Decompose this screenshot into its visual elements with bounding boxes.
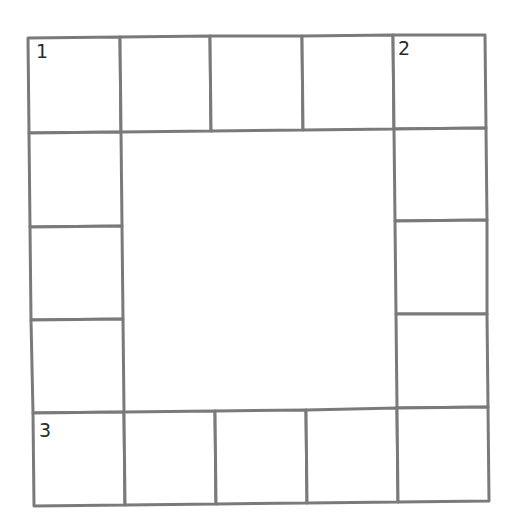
grid-cell-right-column-3[interactable] [396, 314, 488, 408]
grid-cell-top-row-3[interactable] [210, 36, 303, 131]
grid-cell-bottom-row-5[interactable] [397, 407, 489, 502]
grid-cell-left-column-3[interactable] [31, 319, 124, 413]
clue-number-3: 3 [39, 419, 51, 441]
grid-cell-top-row-2[interactable] [120, 36, 211, 132]
grid-cells [28, 35, 489, 506]
clue-number-2: 2 [398, 37, 410, 59]
crossword-grid: 123 [0, 0, 507, 522]
clue-number-1: 1 [36, 40, 48, 62]
grid-cell-bottom-row-2[interactable] [124, 411, 216, 505]
grid-cell-left-column-1[interactable] [29, 132, 122, 227]
grid-cell-right-column-1[interactable] [394, 128, 487, 221]
grid-cell-top-row-4[interactable] [302, 35, 394, 130]
grid-cell-bottom-row-4[interactable] [306, 408, 398, 503]
grid-cell-right-column-2[interactable] [395, 220, 487, 314]
grid-cell-bottom-row-3[interactable] [215, 410, 307, 504]
grid-cell-left-column-2[interactable] [30, 226, 123, 320]
